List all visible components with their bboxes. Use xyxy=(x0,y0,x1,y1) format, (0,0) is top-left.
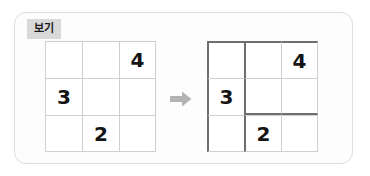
arrow-right-icon xyxy=(169,89,193,109)
after-grid: 432 xyxy=(207,41,318,152)
grid-cell xyxy=(119,115,156,152)
grid-cell xyxy=(82,41,119,78)
screenshot-root: 보기 432 432 xyxy=(0,0,370,176)
arrow-right-glyph xyxy=(169,89,193,109)
grid-cell: 3 xyxy=(45,78,82,115)
grid-cell: 4 xyxy=(119,41,156,78)
grid-cell xyxy=(281,78,318,115)
grid-cell xyxy=(244,41,281,78)
grid-cell: 3 xyxy=(207,78,244,115)
grid-cell xyxy=(244,78,281,115)
grid-cell xyxy=(119,78,156,115)
example-panel: 보기 432 432 xyxy=(14,12,353,164)
grid-cell xyxy=(45,115,82,152)
grid-cell: 2 xyxy=(244,115,281,152)
grid-cell xyxy=(281,115,318,152)
grid-cell: 2 xyxy=(82,115,119,152)
grid-cell xyxy=(45,41,82,78)
grid-cell: 4 xyxy=(281,41,318,78)
figure-row: 432 432 xyxy=(15,13,352,163)
grid-cell xyxy=(82,78,119,115)
grid-cell xyxy=(207,115,244,152)
before-grid: 432 xyxy=(45,41,156,152)
grid-cell xyxy=(207,41,244,78)
